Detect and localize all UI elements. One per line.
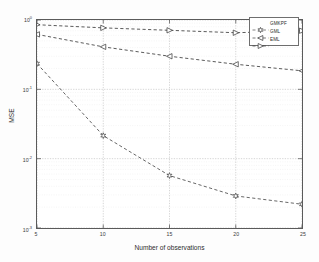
y-axis-label: MSE [8,91,15,141]
x-axis-label: Number of observations [36,244,303,251]
x-tick-label: 25 [292,232,314,237]
hexagram-icon [252,20,269,28]
y-tick-label: 100 [2,16,32,23]
x-tick-label: 15 [159,232,181,237]
legend-label: GML [269,28,280,36]
y-tick-label: 10-1 [2,86,32,93]
figure: MSE 10010-110-210-3 510152025 Number of … [0,0,319,262]
legend-label: GMKPF [269,20,287,28]
x-tick-label: 5 [25,232,47,237]
legend: GMKPFGMLEML [249,17,299,46]
legend-item-eml: EML [252,36,296,44]
right-triangle-icon [252,36,269,44]
legend-item-gmkpf: GMKPF [252,20,296,28]
x-tick-label: 20 [225,232,247,237]
plot-area [36,19,303,229]
y-tick-label: 10-2 [2,156,32,163]
x-tick-label: 10 [92,232,114,237]
data-series-layer [37,20,302,228]
left-triangle-icon [252,28,269,36]
legend-item-gml: GML [252,28,296,36]
legend-label: EML [269,36,280,44]
